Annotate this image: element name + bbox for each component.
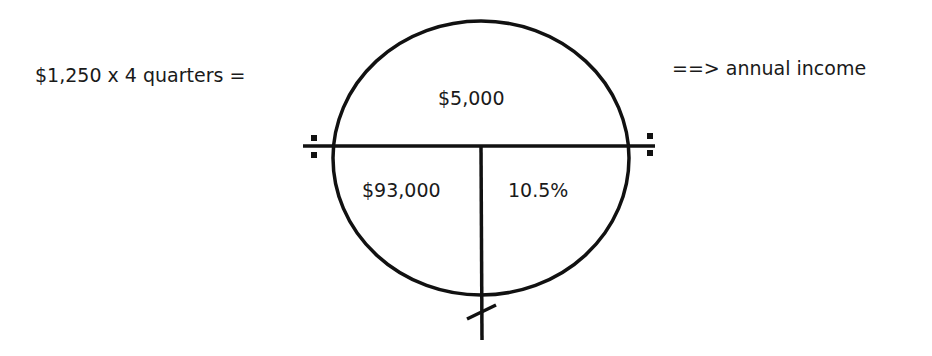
bottom-right-section-value: 10.5% — [508, 181, 568, 200]
circle-diagram-graphic — [0, 0, 932, 356]
top-section-value: $5,000 — [438, 89, 504, 108]
annual-income-label: ==> annual income — [672, 59, 866, 78]
bottom-left-section-value: $93,000 — [362, 181, 441, 200]
quarterly-calculation-label: $1,250 x 4 quarters = — [35, 66, 245, 85]
